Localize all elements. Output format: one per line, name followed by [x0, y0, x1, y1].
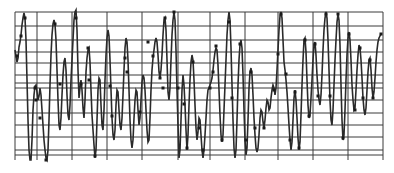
- data-point-marker: [263, 127, 266, 130]
- data-point-marker: [304, 39, 307, 42]
- data-point-marker: [212, 71, 215, 74]
- data-point-marker: [87, 47, 90, 50]
- data-point-marker: [231, 97, 234, 100]
- data-point-marker: [317, 95, 320, 98]
- data-point-marker: [139, 111, 142, 114]
- data-point-marker: [337, 13, 340, 16]
- data-point-marker: [239, 43, 242, 46]
- data-point-marker: [88, 79, 91, 82]
- data-point-marker: [177, 87, 180, 90]
- data-point-marker: [380, 33, 383, 36]
- data-point-marker: [59, 83, 62, 86]
- waveform-chart: [0, 0, 394, 173]
- data-point-marker: [289, 139, 292, 142]
- data-point-marker: [273, 89, 276, 92]
- data-point-marker: [254, 127, 257, 130]
- data-point-marker: [342, 137, 345, 140]
- data-point-marker: [245, 139, 248, 142]
- data-point-marker: [159, 77, 162, 80]
- data-point-marker: [183, 103, 186, 106]
- data-point-marker: [228, 21, 231, 24]
- data-point-marker: [39, 117, 42, 120]
- data-point-marker: [124, 57, 127, 60]
- data-point-marker: [54, 23, 57, 26]
- data-point-marker: [294, 91, 297, 94]
- data-point-marker: [192, 61, 195, 64]
- data-point-marker: [111, 115, 114, 118]
- data-point-marker: [109, 85, 112, 88]
- data-point-marker: [35, 99, 38, 102]
- data-point-marker: [348, 33, 351, 36]
- data-point-marker: [314, 43, 317, 46]
- data-point-marker: [202, 149, 205, 152]
- data-point-marker: [20, 35, 23, 38]
- data-point-marker: [209, 87, 212, 90]
- data-point-marker: [34, 87, 37, 90]
- data-point-marker: [369, 59, 372, 62]
- data-point-marker: [308, 115, 311, 118]
- data-point-marker: [372, 97, 375, 100]
- data-point-marker: [325, 13, 328, 16]
- data-point-marker: [354, 109, 357, 112]
- data-point-marker: [329, 95, 332, 98]
- data-point-marker: [147, 41, 150, 44]
- data-point-marker: [280, 13, 283, 16]
- data-point-marker: [80, 83, 83, 86]
- data-point-marker: [162, 87, 165, 90]
- data-point-marker: [362, 97, 365, 100]
- data-point-marker: [164, 17, 167, 20]
- data-point-marker: [221, 139, 224, 142]
- data-point-marker: [126, 71, 129, 74]
- data-point-marker: [75, 17, 78, 20]
- data-point-marker: [298, 147, 301, 150]
- data-point-marker: [250, 71, 253, 74]
- data-point-marker: [359, 47, 362, 50]
- data-point-marker: [152, 55, 155, 58]
- data-point-marker: [24, 17, 27, 20]
- data-point-marker: [173, 11, 176, 14]
- data-point-marker: [186, 147, 189, 150]
- data-point-marker: [277, 53, 280, 56]
- data-point-marker: [215, 45, 218, 48]
- data-point-marker: [45, 159, 48, 162]
- data-point-marker: [94, 155, 97, 158]
- data-point-marker: [285, 73, 288, 76]
- data-point-marker: [198, 127, 201, 130]
- data-point-marker: [16, 55, 19, 58]
